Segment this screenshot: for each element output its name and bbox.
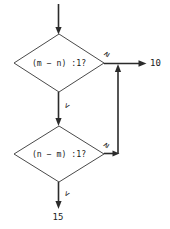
decision-1-label: (m − n) :1?: [32, 58, 86, 68]
branch-label-decision1-ge: ≥: [100, 49, 111, 59]
branch-decision1-lt: [55, 92, 61, 126]
decision-node-2[interactable]: (n − m) :1?: [14, 126, 104, 182]
branch-decision1-ge: [104, 60, 147, 67]
branch-decision2-lt: [55, 182, 61, 209]
branch-label-decision2-lt: <: [61, 189, 72, 199]
flowchart-svg: (m − n) :1? (n − m) :1?: [0, 0, 170, 229]
flowchart-canvas: (m − n) :1? (n − m) :1?: [0, 0, 170, 229]
target-label-fifteen: 15: [53, 212, 64, 222]
target-label-ten: 10: [150, 58, 161, 68]
branch-label-decision1-lt: <: [61, 101, 72, 111]
decision-node-1[interactable]: (m − n) :1?: [14, 34, 104, 92]
entry-arrow: [55, 4, 61, 35]
decision-2-label: (n − m) :1?: [32, 149, 86, 159]
branch-label-decision2-ge: ≥: [100, 140, 111, 150]
